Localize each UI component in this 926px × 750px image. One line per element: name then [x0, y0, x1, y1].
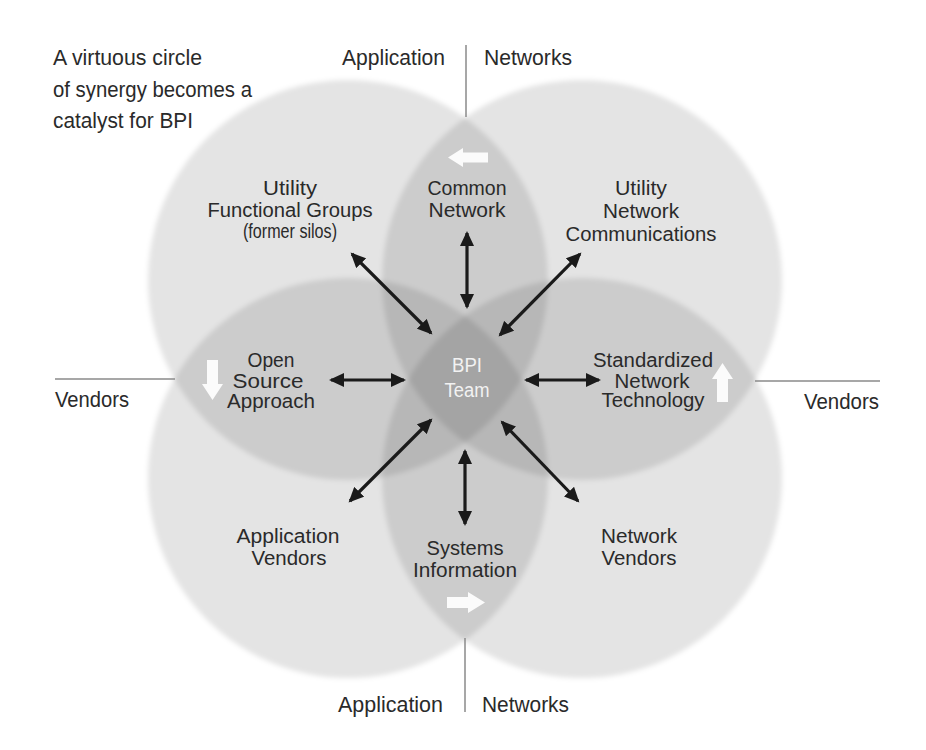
node-application-vendors: Application Vendors — [237, 525, 340, 569]
node-label-line: Technology — [602, 389, 705, 411]
axis-label-bottom-networks: Networks — [482, 692, 569, 717]
node-label-line: Vendors — [602, 547, 677, 569]
node-network-vendors: Network Vendors — [601, 525, 678, 569]
axis-label-top-application: Application — [342, 45, 445, 70]
caption-line-3: catalyst for BPI — [53, 108, 193, 133]
bpi-synergy-diagram: A virtuous circle of synergy becomes a c… — [0, 0, 926, 750]
axis-label-right-vendors: Vendors — [804, 389, 879, 414]
node-common-network: Common Network — [428, 177, 507, 221]
node-label-line: (former silos) — [243, 220, 337, 242]
node-label-line: Application — [237, 525, 340, 547]
node-label-line: Functional Groups — [208, 199, 373, 221]
node-label-line: Open — [248, 349, 295, 371]
node-label-line: Source — [233, 370, 304, 392]
node-label-line: Network — [603, 200, 680, 222]
node-label-line: Information — [413, 559, 517, 581]
axis-label-left-vendors: Vendors — [55, 387, 129, 412]
center-label-line: BPI — [452, 354, 482, 376]
diagram-caption: A virtuous circle of synergy becomes a c… — [53, 45, 253, 133]
axis-label-bottom-application: Application — [338, 692, 443, 717]
axis-label-top-networks: Networks — [484, 45, 572, 70]
node-systems-information: Systems Information — [413, 537, 517, 581]
node-label-line: Utility — [263, 177, 317, 199]
node-label-line: Communications — [566, 223, 717, 245]
node-label-line: Approach — [227, 390, 315, 412]
node-label-line: Systems — [427, 537, 504, 559]
node-label-line: Network — [601, 525, 678, 547]
node-label-line: Network — [429, 199, 507, 221]
node-label-line: Standardized — [593, 349, 713, 371]
caption-line-1: A virtuous circle — [53, 45, 202, 70]
center-label-line: Team — [445, 379, 490, 401]
node-label-line: Vendors — [252, 547, 327, 569]
node-label-line: Common — [428, 177, 507, 199]
circle-bottom-right — [382, 278, 782, 678]
caption-line-2: of synergy becomes a — [53, 77, 253, 102]
node-label-line: Utility — [615, 177, 667, 199]
